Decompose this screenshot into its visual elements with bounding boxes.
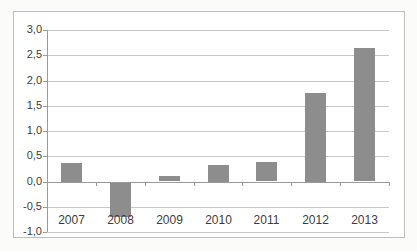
x-category-label: 2011 — [242, 213, 291, 227]
bar-2007 — [61, 163, 82, 182]
gridline — [47, 131, 389, 132]
x-axis-tick — [291, 182, 292, 186]
chart-frame: 3,02,52,01,51,00,50,0-0,5-1,0 2007200820… — [13, 11, 405, 238]
y-tick-label: 2,5 — [14, 48, 42, 61]
x-axis-tick — [340, 182, 341, 186]
chart-image: 3,02,52,01,51,00,50,0-0,5-1,0 2007200820… — [0, 0, 417, 251]
x-axis-tick — [242, 182, 243, 186]
bar-2010 — [208, 165, 229, 182]
x-axis-tick — [389, 182, 390, 186]
y-tick-label: -0,5 — [14, 200, 42, 213]
y-axis-line — [47, 30, 48, 232]
bar-2011 — [256, 162, 277, 181]
x-category-label: 2007 — [47, 213, 96, 227]
y-axis-tick — [43, 232, 47, 233]
x-axis-zero-line — [47, 182, 389, 183]
gridline — [47, 156, 389, 157]
gridline — [47, 81, 389, 82]
y-tick-label: 0,5 — [14, 149, 42, 162]
gridline — [47, 207, 389, 208]
x-axis-tick — [194, 182, 195, 186]
x-axis-tick — [96, 182, 97, 186]
gridline — [47, 106, 389, 107]
x-category-label: 2010 — [194, 213, 243, 227]
y-tick-label: -1,0 — [14, 225, 42, 238]
bar-2009 — [159, 176, 180, 181]
x-category-label: 2008 — [96, 213, 145, 227]
gridline — [47, 30, 389, 31]
x-axis-tick — [47, 182, 48, 186]
y-tick-label: 0,0 — [14, 175, 42, 188]
x-category-label: 2013 — [340, 213, 389, 227]
bar-2013 — [354, 48, 375, 181]
y-tick-label: 1,5 — [14, 99, 42, 112]
gridline — [47, 55, 389, 56]
gridline — [47, 232, 389, 233]
y-tick-label: 2,0 — [14, 74, 42, 87]
y-tick-label: 1,0 — [14, 124, 42, 137]
bar-2008 — [110, 182, 131, 217]
x-category-label: 2009 — [145, 213, 194, 227]
y-tick-label: 3,0 — [14, 23, 42, 36]
bar-2012 — [305, 93, 326, 182]
x-category-label: 2012 — [291, 213, 340, 227]
x-axis-tick — [145, 182, 146, 186]
